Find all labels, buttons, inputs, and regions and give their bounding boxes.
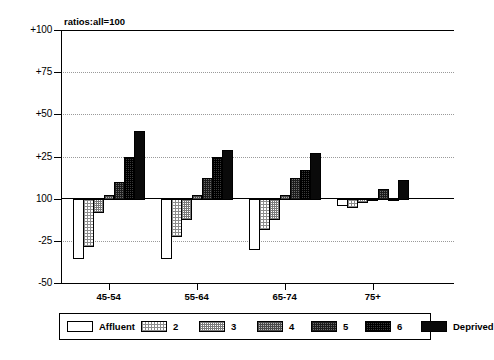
bar	[202, 178, 213, 199]
y-axis-tick	[54, 199, 61, 200]
legend-label: 3	[231, 321, 236, 332]
bar	[357, 199, 368, 203]
chart-note: ratios:all=100	[64, 16, 125, 27]
y-axis-label: +25	[4, 152, 52, 162]
legend-label: 6	[397, 321, 402, 332]
bar	[337, 199, 348, 207]
bar	[280, 195, 291, 199]
legend-swatch	[365, 321, 391, 332]
y-axis-label: +75	[4, 67, 52, 77]
y-axis-label: -25	[4, 236, 52, 246]
x-axis-tick	[109, 283, 110, 290]
legend-swatch	[311, 321, 337, 332]
bar	[212, 157, 223, 200]
legend-swatch	[141, 321, 167, 332]
x-axis-label: 45-54	[97, 291, 121, 302]
x-axis-tick	[285, 283, 286, 290]
bar	[83, 199, 94, 247]
legend-label: 4	[289, 321, 294, 332]
bars-layer	[61, 30, 453, 283]
bar	[249, 199, 260, 251]
bar	[222, 150, 233, 200]
bar	[398, 180, 409, 200]
bar	[259, 199, 270, 230]
legend-swatch	[67, 321, 93, 332]
bar	[161, 199, 172, 259]
bar	[290, 178, 301, 199]
bar	[124, 157, 135, 200]
x-axis-label: 75+	[365, 291, 381, 302]
bar	[93, 199, 104, 213]
legend-swatch	[257, 321, 283, 332]
y-axis-tick	[54, 157, 61, 158]
y-axis-label: +50	[4, 109, 52, 119]
bar	[192, 195, 203, 199]
legend-item[interactable]: 6	[365, 314, 402, 339]
x-axis-line	[61, 283, 454, 284]
x-axis-tick	[197, 283, 198, 290]
x-axis-label: 65-74	[273, 291, 297, 302]
legend-item[interactable]: 5	[311, 314, 348, 339]
x-axis-tick	[373, 283, 374, 290]
legend-item[interactable]: 3	[199, 314, 236, 339]
legend-item[interactable]: Deprived	[421, 314, 494, 339]
bar	[269, 199, 280, 220]
bar	[368, 199, 379, 201]
legend-item[interactable]: Affluent	[67, 314, 135, 339]
legend-swatch	[199, 321, 225, 332]
bar	[378, 189, 389, 200]
bar	[104, 195, 115, 199]
bar	[388, 199, 399, 201]
legend-label: Deprived	[453, 321, 494, 332]
bar	[300, 170, 311, 200]
y-axis-label: +100	[4, 25, 52, 35]
legend-item[interactable]: 2	[141, 314, 178, 339]
bar	[310, 153, 321, 200]
legend-label: 2	[173, 321, 178, 332]
legend-label: Affluent	[99, 321, 135, 332]
x-axis-label: 55-64	[185, 291, 209, 302]
legend-item[interactable]: 4	[257, 314, 294, 339]
bar	[347, 199, 358, 208]
legend-label: 5	[343, 321, 348, 332]
bar	[181, 199, 192, 220]
y-axis-tick	[54, 114, 61, 115]
bar	[73, 199, 84, 259]
y-axis-label: 100	[4, 194, 52, 204]
y-axis-tick	[54, 30, 61, 31]
bar	[171, 199, 182, 237]
y-axis-tick	[54, 72, 61, 73]
legend: Affluent23456Deprived	[59, 313, 431, 340]
y-axis-label: -50	[4, 278, 52, 288]
bar	[134, 131, 145, 199]
bar	[114, 182, 125, 200]
y-axis-tick	[54, 283, 61, 284]
legend-swatch	[421, 321, 447, 332]
y-axis-tick	[54, 241, 61, 242]
